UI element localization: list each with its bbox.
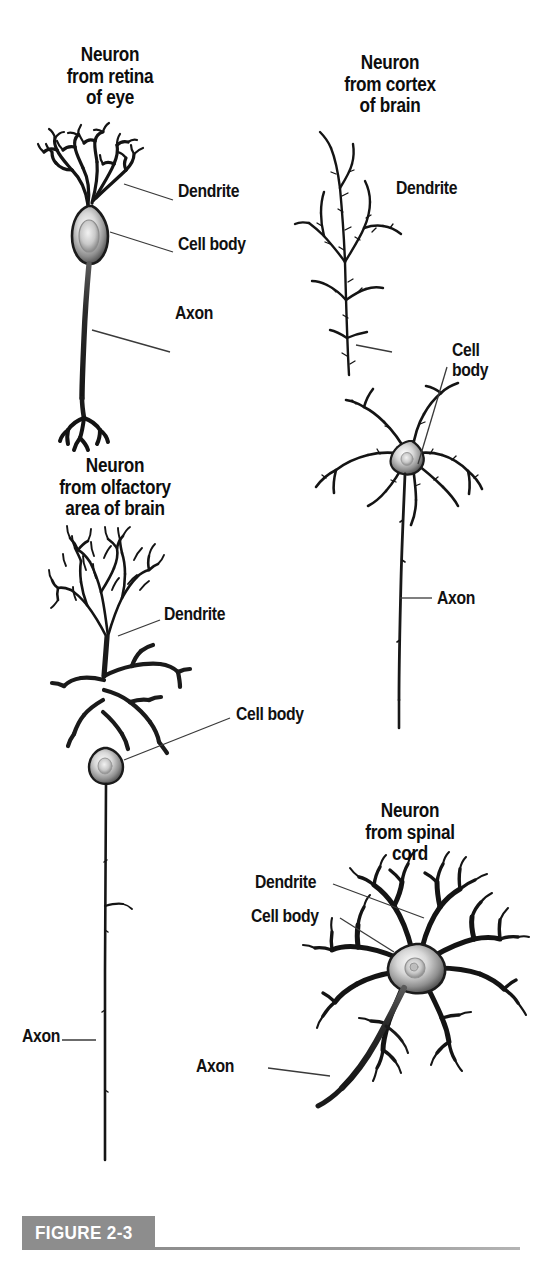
retina-neuron-drawing [38, 123, 143, 450]
panel-heading-olfactory: Neuron from olfactory area of brain [14, 455, 216, 520]
label-dendrite-spinal: Dendrite [255, 872, 316, 892]
caption-rule [148, 1247, 520, 1250]
label-dendrite-olfactory: Dendrite [164, 604, 225, 624]
label-cell-body-cortex: Cell body [452, 340, 488, 380]
panel-heading-retina: Neuron from retina of eye [22, 44, 198, 109]
label-dendrite-cortex: Dendrite [396, 178, 457, 198]
panel-heading-cortex: Neuron from cortex of brain [302, 52, 478, 117]
label-cell-body-retina: Cell body [178, 234, 246, 254]
figure-number-banner: FIGURE 2-3 [22, 1216, 155, 1250]
label-axon-spinal: Axon [196, 1056, 234, 1076]
label-axon-cortex: Axon [437, 588, 475, 608]
label-axon-retina: Axon [175, 303, 213, 323]
figure-canvas: Neuron from retina of eye Neuron from co… [0, 0, 534, 1285]
panel-heading-spinal: Neuron from spinal cord [322, 800, 498, 865]
figure-number-text: FIGURE 2-3 [35, 1222, 133, 1244]
label-dendrite-retina: Dendrite [178, 181, 239, 201]
figure-caption: FIGURE 2-3 [0, 1216, 534, 1264]
label-cell-body-olfactory: Cell body [236, 704, 304, 724]
spinal-neuron-drawing [303, 852, 529, 1106]
label-cell-body-spinal: Cell body [251, 906, 319, 926]
cortex-neuron-drawing [295, 132, 482, 728]
label-axon-olfactory: Axon [22, 1026, 60, 1046]
leader-lines [62, 184, 447, 1076]
